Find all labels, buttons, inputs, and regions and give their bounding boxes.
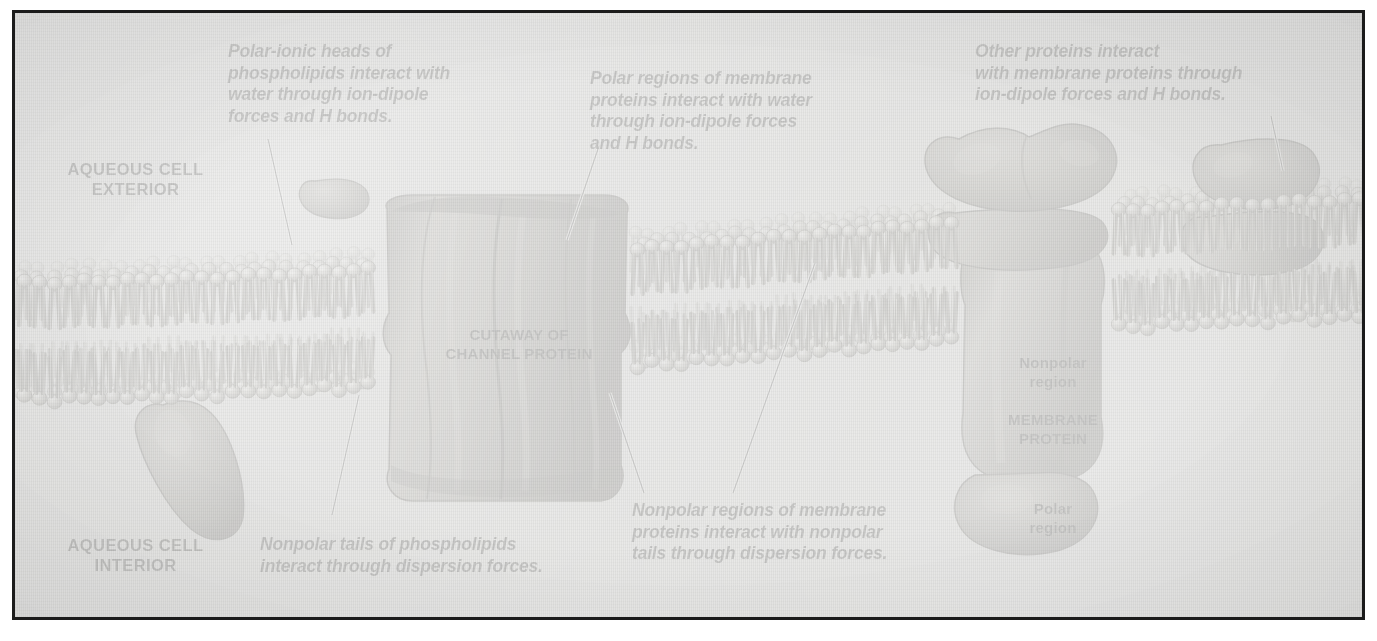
caption-polar-regions-proteins: Polar regions of membrane proteins inter… [590,68,875,154]
small-surface-protein-shape [299,179,368,219]
caption-nonpolar-regions-proteins: Nonpolar regions of membrane proteins in… [632,500,962,565]
figure-plate: Polar-ionic heads of phospholipids inter… [12,10,1365,620]
caption-polar-ionic-heads: Polar-ionic heads of phospholipids inter… [228,41,498,127]
label-aqueous-cell-interior: AQUEOUS CELL INTERIOR [33,535,238,575]
label-polar-region: Polar region [973,500,1133,537]
label-cutaway-channel-protein: CUTAWAY OF CHANNEL PROTEIN [404,326,634,363]
caption-nonpolar-tails: Nonpolar tails of phospholipids interact… [260,534,610,577]
caption-other-proteins: Other proteins interact with membrane pr… [975,41,1305,106]
label-nonpolar-region: Nonpolar region [973,354,1133,391]
label-aqueous-cell-exterior: AQUEOUS CELL EXTERIOR [33,159,238,199]
membrane-figure: Polar-ionic heads of phospholipids inter… [0,0,1377,641]
label-membrane-protein: MEMBRANE PROTEIN [973,411,1133,448]
left-embedded-protein-shape [135,401,243,539]
